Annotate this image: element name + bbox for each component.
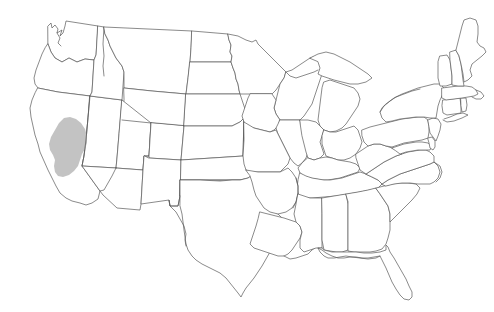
state-south-dakota[interactable] — [186, 62, 240, 94]
us-map-figure: single light gray shaded blob straddling… — [0, 0, 494, 312]
us-map-canvas[interactable] — [0, 0, 494, 312]
state-north-dakota[interactable] — [190, 31, 232, 62]
state-alabama[interactable] — [322, 194, 348, 252]
state-nebraska[interactable] — [184, 94, 246, 126]
state-rhode-island[interactable] — [461, 98, 467, 112]
state-new-mexico[interactable] — [141, 156, 181, 206]
state-colorado[interactable] — [149, 123, 184, 160]
state-washington[interactable] — [48, 21, 98, 62]
state-connecticut[interactable] — [442, 98, 461, 115]
region-west — [30, 21, 192, 210]
